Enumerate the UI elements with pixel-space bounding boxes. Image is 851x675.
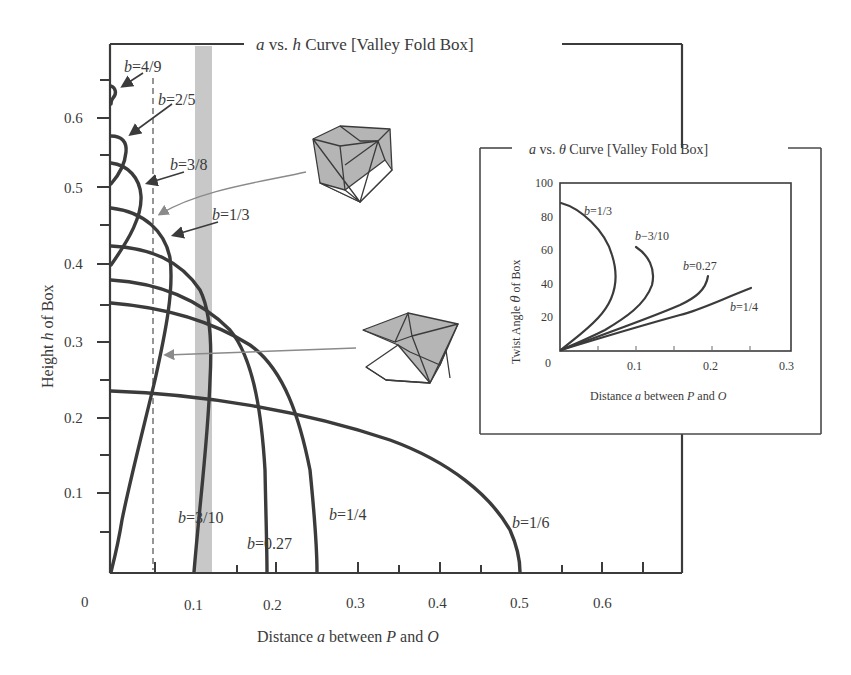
main-y-axis-label: Height h of Box — [39, 284, 57, 388]
main-y-tick-labels: 0.6 0.5 0.4 0.3 0.2 0.1 — [64, 110, 83, 501]
svg-text:0.6: 0.6 — [593, 595, 612, 611]
svg-text:0.1: 0.1 — [627, 359, 642, 373]
svg-text:40: 40 — [541, 277, 553, 291]
main-chart-title: a vs. h Curve [Valley Fold Box] — [256, 35, 474, 54]
svg-text:60: 60 — [541, 243, 553, 257]
main-y-axis-ticks — [97, 80, 110, 532]
svg-text:20: 20 — [541, 310, 553, 324]
svg-text:0: 0 — [545, 356, 551, 370]
svg-text:b=1/3: b=1/3 — [584, 204, 612, 218]
svg-text:0.2: 0.2 — [263, 597, 282, 613]
svg-text:0.4: 0.4 — [428, 595, 447, 611]
svg-text:b−3/10: b−3/10 — [635, 229, 669, 243]
inset-chart-title: a vs. θ Curve [Valley Fold Box] — [529, 142, 708, 157]
inset-y-axis-label: Twist Angle θ of Box — [507, 259, 523, 364]
inset-x-axis-label: Distance a between P and O — [590, 389, 727, 403]
main-x-axis-label: Distance a between P and O — [257, 628, 439, 645]
twisted-box-illustration — [363, 313, 458, 383]
curve-b-2-5 — [111, 136, 126, 184]
svg-text:0.4: 0.4 — [64, 256, 83, 272]
svg-text:b=2/5: b=2/5 — [158, 91, 195, 108]
svg-text:b=3/10: b=3/10 — [178, 509, 223, 526]
main-x-tick-labels: 0 0.1 0.2 0.3 0.4 0.5 0.6 — [81, 594, 612, 613]
svg-text:0.5: 0.5 — [510, 595, 529, 611]
illustration-arrows — [160, 172, 356, 355]
svg-text:b=1/6: b=1/6 — [512, 514, 549, 531]
closed-box-illustration — [313, 126, 392, 202]
main-x-axis-ticks — [155, 562, 643, 573]
svg-text:0.2: 0.2 — [64, 410, 83, 426]
svg-text:0.1: 0.1 — [184, 597, 203, 613]
curve-b-027 — [111, 280, 267, 572]
svg-text:b=1/3: b=1/3 — [212, 206, 249, 223]
svg-text:b=0.27: b=0.27 — [683, 259, 717, 273]
svg-text:100: 100 — [535, 176, 553, 190]
curve-b-4-9 — [111, 86, 115, 104]
svg-text:b=0.27: b=0.27 — [247, 535, 292, 552]
figure-canvas: a vs. h Curve [Valley Fold Box] 0.6 0.5 … — [0, 0, 851, 675]
svg-text:0.1: 0.1 — [64, 485, 83, 501]
svg-text:0.3: 0.3 — [779, 359, 794, 373]
svg-text:0.5: 0.5 — [64, 180, 83, 196]
svg-text:b=3/8: b=3/8 — [170, 156, 207, 173]
svg-text:0.3: 0.3 — [64, 334, 83, 350]
svg-text:b=1/4: b=1/4 — [329, 506, 366, 523]
svg-text:0.3: 0.3 — [346, 595, 365, 611]
svg-text:b=4/9: b=4/9 — [124, 58, 161, 75]
svg-text:0: 0 — [81, 594, 89, 610]
svg-text:80: 80 — [541, 210, 553, 224]
svg-text:0.6: 0.6 — [64, 110, 83, 126]
svg-text:0.2: 0.2 — [703, 359, 718, 373]
svg-text:b=1/4: b=1/4 — [730, 300, 758, 314]
